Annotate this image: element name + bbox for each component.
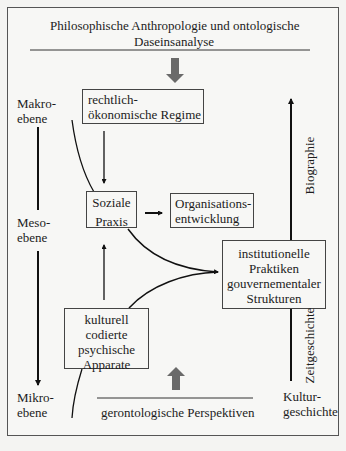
kult-line-1: kulturell	[65, 312, 148, 327]
inst-line-3: gouvernementaler	[223, 276, 325, 291]
organisationsentwicklung-box: Organisations- entwicklung	[170, 193, 254, 228]
meso-label-2: ebene	[17, 230, 47, 245]
zeitgeschichte-label: Zeitgeschichte	[302, 298, 317, 394]
gerontologische-perspektiven-label: gerontologische Perspektiven	[101, 405, 254, 420]
soziale-praxis-box: Soziale Praxis	[86, 191, 137, 228]
meso-label-1: Meso-	[17, 215, 50, 230]
praxis-line-2: Praxis	[87, 212, 136, 231]
org-line-1: Organisations-	[175, 196, 253, 211]
makro-label-2: ebene	[17, 111, 47, 126]
inst-line-2: Praktiken	[223, 261, 325, 276]
kulturell-codierte-box: kulturell codierte psychische Apparate	[64, 308, 149, 369]
makro-label-1: Makro-	[17, 96, 56, 111]
biographie-label: Biographie	[302, 131, 317, 201]
praxis-line-1: Soziale	[87, 193, 136, 212]
mikro-label-1: Mikro-	[17, 390, 54, 405]
regime-box: rechtlich- ökonomische Regime	[82, 89, 204, 124]
org-line-2: entwicklung	[175, 211, 253, 226]
kult-line-4: Apparate	[65, 357, 148, 372]
regime-line-2: ökonomische Regime	[88, 107, 203, 122]
kulturgeschichte-label-1: Kultur-	[283, 389, 321, 404]
kult-line-2: codierte	[65, 327, 148, 342]
inst-line-1: institutionelle	[223, 246, 325, 261]
regime-line-1: rechtlich-	[88, 92, 203, 107]
kulturgeschichte-label-2: geschichte	[283, 404, 338, 419]
title-line-1: Philosophische Anthropologie und ontolog…	[50, 18, 300, 33]
mikro-label-2: ebene	[17, 405, 47, 420]
title-line-2: Daseinsanalyse	[134, 34, 214, 49]
page-bleed-strip	[0, 440, 346, 451]
kult-line-3: psychische	[65, 342, 148, 357]
